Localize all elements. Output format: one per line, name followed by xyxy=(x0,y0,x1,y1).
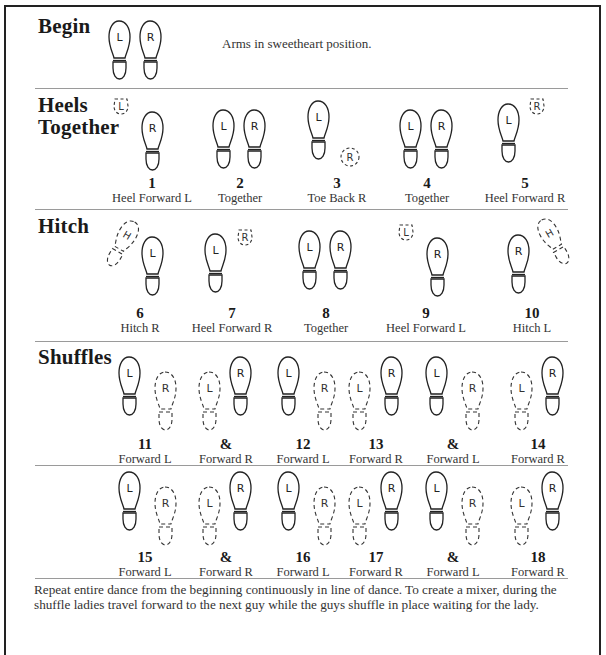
svg-text:L: L xyxy=(433,482,440,495)
right-heel-dashed-icon: R xyxy=(528,97,548,117)
svg-text:R: R xyxy=(515,245,523,258)
step-14: 14Forward R xyxy=(483,436,593,467)
svg-text:R: R xyxy=(162,497,170,510)
left-foot-icon: L xyxy=(118,471,142,533)
svg-text:R: R xyxy=(162,382,170,395)
svg-text:R: R xyxy=(237,367,245,380)
divider xyxy=(35,465,568,466)
right-foot-icon: R xyxy=(229,471,253,533)
svg-text:R: R xyxy=(251,120,259,133)
left-foot-icon: L xyxy=(497,103,521,165)
left-foot-icon: L xyxy=(425,356,449,418)
left-foot-icon: L xyxy=(399,109,423,171)
divider xyxy=(35,88,568,89)
right-foot-icon: R xyxy=(243,109,267,171)
left-heel-dashed-icon: L xyxy=(112,97,132,117)
svg-text:L: L xyxy=(518,497,525,510)
svg-text:R: R xyxy=(469,497,477,510)
svg-text:L: L xyxy=(315,111,322,124)
svg-text:R: R xyxy=(149,122,157,135)
left-foot-icon: L xyxy=(307,100,331,162)
right-heel-dashed-icon: R xyxy=(236,228,256,248)
left-foot-icon: L xyxy=(118,356,142,418)
right-foot-icon: R xyxy=(229,356,253,418)
right-foot-icon: R xyxy=(541,356,565,418)
svg-text:L: L xyxy=(206,382,213,395)
svg-text:R: R xyxy=(237,482,245,495)
left-foot-dashed-icon: L xyxy=(510,371,534,433)
left-foot-icon: L xyxy=(212,109,236,171)
left-foot-icon: L xyxy=(277,471,301,533)
svg-text:R: R xyxy=(388,367,396,380)
svg-text:L: L xyxy=(306,241,313,254)
svg-text:L: L xyxy=(116,31,123,44)
svg-text:L: L xyxy=(206,497,213,510)
left-foot-icon: L xyxy=(108,20,132,82)
section-title-hitch: Hitch xyxy=(38,215,89,237)
svg-text:R: R xyxy=(469,382,477,395)
svg-text:L: L xyxy=(149,247,156,260)
step-18: 18Forward R xyxy=(483,549,593,580)
section-title-shuffles: Shuffles xyxy=(38,346,112,368)
step-4: 4Together xyxy=(372,175,482,206)
right-foot-icon: R xyxy=(141,111,165,173)
svg-text:L: L xyxy=(403,227,409,238)
svg-text:L: L xyxy=(212,244,219,257)
svg-text:L: L xyxy=(407,120,414,133)
svg-text:R: R xyxy=(321,497,329,510)
left-foot-dashed-icon: L xyxy=(510,486,534,548)
divider xyxy=(35,341,568,342)
svg-text:R: R xyxy=(438,120,446,133)
right-foot-dashed-icon: R xyxy=(154,371,178,433)
left-foot-icon: L xyxy=(425,471,449,533)
right-foot-dashed-icon: R xyxy=(461,486,485,548)
svg-text:R: R xyxy=(549,367,557,380)
right-foot-dashed-icon: R xyxy=(154,486,178,548)
section-title-heels-together: Heels Together xyxy=(38,94,119,138)
right-foot-icon: R xyxy=(380,356,404,418)
svg-text:R: R xyxy=(347,152,354,163)
svg-text:L: L xyxy=(220,120,227,133)
step-5: 5Heel Forward R xyxy=(470,175,580,206)
svg-text:L: L xyxy=(126,482,133,495)
svg-text:L: L xyxy=(518,382,525,395)
left-foot-icon: L xyxy=(277,356,301,418)
right-foot-icon: R xyxy=(139,20,163,82)
left-hitch-dashed-icon: H xyxy=(525,215,575,285)
left-foot-icon: L xyxy=(141,236,165,298)
right-foot-icon: R xyxy=(426,237,450,299)
step-2: 2Together xyxy=(185,175,295,206)
divider xyxy=(35,209,568,210)
svg-text:L: L xyxy=(356,497,363,510)
left-foot-icon: L xyxy=(298,230,322,292)
right-foot-dashed-icon: R xyxy=(313,371,337,433)
left-foot-dashed-icon: L xyxy=(348,371,372,433)
right-foot-dashed-icon: R xyxy=(313,486,337,548)
footer-instructions: Repeat entire dance from the beginning c… xyxy=(34,582,574,612)
svg-text:L: L xyxy=(126,367,133,380)
right-foot-icon: R xyxy=(430,109,454,171)
svg-text:R: R xyxy=(549,482,557,495)
svg-text:L: L xyxy=(118,101,124,112)
svg-text:H: H xyxy=(543,227,555,240)
right-toe-dashed-icon: R xyxy=(339,146,361,168)
right-foot-icon: R xyxy=(329,230,353,292)
svg-text:R: R xyxy=(388,482,396,495)
left-heel-dashed-icon: L xyxy=(397,223,417,243)
svg-text:R: R xyxy=(434,248,442,261)
right-foot-dashed-icon: R xyxy=(461,371,485,433)
svg-text:R: R xyxy=(242,232,249,243)
right-foot-icon: R xyxy=(541,471,565,533)
step-8: 8Together xyxy=(271,305,381,336)
svg-text:L: L xyxy=(285,482,292,495)
svg-text:L: L xyxy=(505,114,512,127)
left-foot-dashed-icon: L xyxy=(198,371,222,433)
left-foot-icon: L xyxy=(204,233,228,295)
svg-text:H: H xyxy=(121,229,133,242)
svg-text:R: R xyxy=(534,101,541,112)
svg-text:R: R xyxy=(321,382,329,395)
begin-note: Arms in sweetheart position. xyxy=(222,36,371,52)
svg-text:R: R xyxy=(337,241,345,254)
left-foot-dashed-icon: L xyxy=(348,486,372,548)
right-foot-icon: R xyxy=(380,471,404,533)
